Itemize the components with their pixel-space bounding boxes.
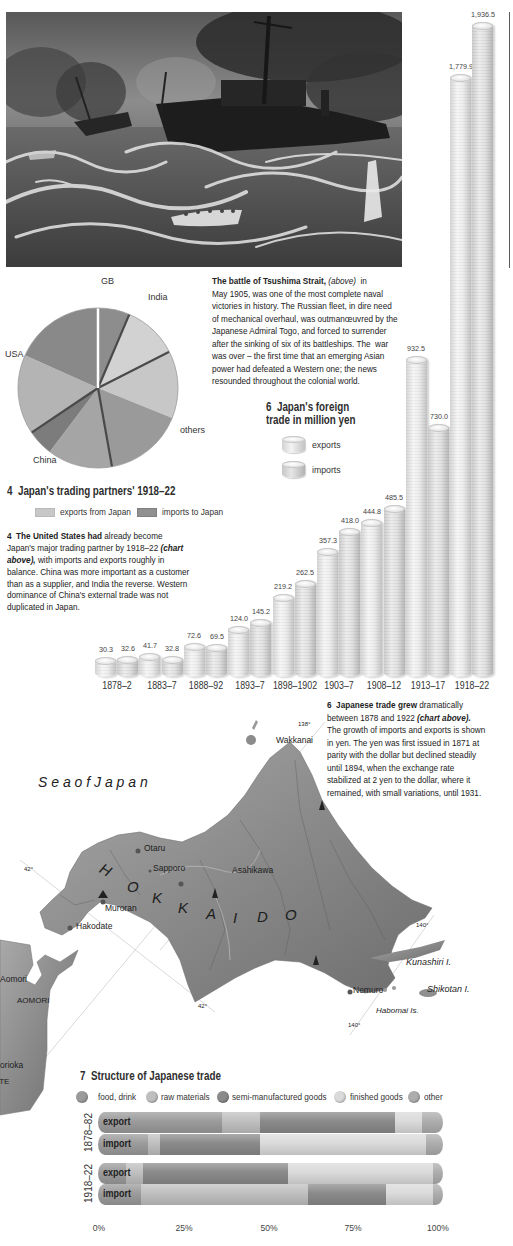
region-letter: I	[233, 909, 237, 926]
city-label-sapporo: Sapporo	[153, 863, 185, 873]
prefecture-label-aomori: AOMORI	[17, 996, 49, 1005]
bar-top-cap	[317, 548, 338, 556]
legend-label-raw-materials: raw materials	[161, 1092, 210, 1102]
segment-semi-manufactured-goods	[308, 1184, 386, 1205]
rishiri-island	[246, 735, 256, 745]
city-label-asahikawa: Asahikawa	[232, 865, 273, 875]
hokkaido-map: 138° Wakkanai S e a o f J a p a n Otaru …	[0, 700, 513, 1120]
grid-label-140-south: 140°	[348, 1022, 361, 1028]
exports-bar	[184, 643, 205, 677]
legend-dot-finished-goods-icon	[334, 1091, 346, 1103]
bar-top-cap	[428, 424, 449, 432]
rebun-island	[252, 720, 258, 730]
region-letter: K	[152, 889, 163, 906]
period-label-1878-82: 1878–82	[83, 1108, 94, 1158]
bar-top-cap	[228, 626, 249, 634]
bar-top-cap	[384, 505, 405, 513]
bar-top-cap	[206, 644, 227, 652]
x-axis-label: 1918–22	[446, 680, 499, 691]
grid-label-140-north: 140°	[416, 922, 429, 928]
bar-top-cap	[184, 643, 205, 651]
bar-top-cap	[406, 356, 427, 364]
exports-bar	[273, 594, 294, 677]
trade-structure-title: 7 Structure of Japanese trade	[80, 1070, 221, 1083]
region-letter: O	[285, 906, 297, 923]
segment-other	[433, 1184, 443, 1205]
exports-bar	[406, 356, 427, 677]
bar-value-label: 1,936.5	[465, 10, 501, 19]
bar-top-cap	[250, 619, 271, 627]
grid-label-138: 138°	[298, 721, 311, 727]
bar-top-cap	[339, 528, 360, 536]
bar-top-cap	[95, 657, 116, 665]
bar-value-label: 932.5	[398, 344, 434, 353]
segment-semi-manufactured-goods	[143, 1163, 288, 1184]
legend-label-other: other	[424, 1092, 443, 1102]
bar-top-cap	[139, 653, 160, 661]
island-label-kunashiri: Kunashiri I.	[406, 957, 451, 967]
legend-dot-raw-materials-icon	[146, 1091, 158, 1103]
exports-bar	[95, 657, 116, 677]
stacked-bar-row	[98, 1184, 443, 1205]
imports-bar	[472, 22, 493, 677]
city-label-wakkanai: Wakkanai	[276, 735, 313, 745]
legend-dot-food-drink-icon	[76, 1091, 88, 1103]
imports-bar	[206, 644, 227, 677]
foreign-trade-bar-chart: 30.332.61878–241.732.81883–772.669.51888…	[0, 0, 513, 700]
region-letter: K	[178, 899, 189, 916]
legend-label-semi-manufactured: semi-manufactured goods	[232, 1092, 327, 1102]
exports-bar	[450, 74, 471, 677]
segment-finished-goods	[386, 1184, 433, 1205]
bar-top-cap	[162, 656, 183, 664]
exports-bar	[317, 548, 338, 677]
bar-top-cap	[295, 580, 316, 588]
exports-bar	[228, 626, 249, 677]
exports-bar	[139, 653, 160, 677]
stacked-bar-row	[98, 1163, 443, 1184]
bar-top-cap	[117, 656, 138, 664]
x-tick-100: 100%	[420, 1222, 456, 1233]
imports-bar	[162, 656, 183, 677]
segment-other	[433, 1163, 443, 1184]
imports-bar	[339, 528, 360, 677]
legend-label-food-drink: food, drink	[98, 1092, 136, 1102]
imports-bar	[117, 656, 138, 677]
honshu-landmass	[0, 940, 78, 1115]
legend-dot-semi-manufactured-icon	[217, 1091, 229, 1103]
segment-finished-goods	[260, 1134, 426, 1155]
segment-raw-materials	[141, 1184, 309, 1205]
city-label-morioka: Morioka	[0, 1060, 24, 1070]
grid-label-42-west: 42°	[24, 866, 34, 872]
row-label-import: import	[103, 1188, 131, 1199]
row-label-import: import	[103, 1138, 131, 1149]
city-label-aomori: Aomori	[0, 974, 27, 984]
city-label-nemuro: Nemuro	[353, 985, 384, 995]
imports-bar	[428, 424, 449, 677]
bar-top-cap	[472, 22, 493, 30]
bar-top-cap	[361, 519, 382, 527]
exports-bar	[361, 519, 382, 677]
prefecture-label-iwate: IWATE	[0, 1077, 9, 1086]
region-letter: A	[205, 905, 216, 922]
row-label-export: export	[103, 1167, 131, 1178]
x-tick-50: 50%	[251, 1222, 287, 1233]
region-letter: O	[127, 878, 139, 895]
legend-label-finished-goods: finished goods	[350, 1092, 403, 1102]
sea-of-japan-label: S e a o f J a p a n	[38, 774, 148, 790]
x-tick-0: 0%	[81, 1222, 117, 1233]
segment-semi-manufactured-goods	[160, 1134, 261, 1155]
segment-raw-materials	[148, 1134, 161, 1155]
legend-dot-other-icon	[408, 1091, 420, 1103]
bar-top-cap	[450, 74, 471, 82]
imports-bar	[295, 580, 316, 677]
grid-label-42-south: 42°	[198, 1003, 208, 1009]
period-label-1918-22: 1918–22	[83, 1159, 94, 1209]
imports-bar	[250, 619, 271, 677]
city-label-otaru: Otaru	[144, 843, 166, 853]
x-tick-75: 75%	[335, 1222, 371, 1233]
segment-finished-goods	[288, 1163, 433, 1184]
region-letter: D	[257, 908, 268, 925]
x-tick-25: 25%	[166, 1222, 202, 1233]
bar-top-cap	[273, 594, 294, 602]
city-label-muroran: Muroran	[105, 903, 137, 913]
